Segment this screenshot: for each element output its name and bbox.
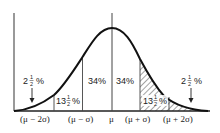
x-label-mu-plus-2sigma: (μ + 2σ) [163, 114, 193, 124]
svg-text:2: 2 [181, 76, 186, 86]
svg-text:1: 1 [30, 74, 33, 80]
x-label-mu-minus-2sigma: (μ − 2σ) [20, 114, 50, 124]
arrow-down-icon [189, 88, 194, 103]
svg-text:2: 2 [188, 81, 191, 87]
label-left-34-percent: 34% [88, 76, 106, 86]
svg-text:1: 1 [67, 94, 70, 100]
svg-text:%: % [36, 76, 44, 86]
svg-text:%: % [159, 96, 167, 106]
label-right-34-percent: 34% [116, 76, 134, 86]
label-right-tail-percent: 2 1 2 % [181, 74, 202, 87]
svg-text:%: % [194, 76, 202, 86]
svg-text:13: 13 [143, 96, 153, 106]
arrow-down-icon [30, 88, 35, 103]
svg-text:1: 1 [154, 94, 157, 100]
x-label-mu-minus-sigma: (μ − σ) [68, 114, 93, 124]
svg-text:13: 13 [56, 96, 66, 106]
label-left-13-percent: 13 1 2 % [56, 94, 80, 107]
svg-text:2: 2 [154, 101, 157, 107]
x-label-mu-plus-sigma: (μ + σ) [125, 114, 150, 124]
svg-text:1: 1 [188, 74, 191, 80]
x-label-mu: μ [109, 114, 114, 124]
label-left-tail-percent: 2 1 2 % [23, 74, 44, 87]
svg-text:2: 2 [67, 101, 70, 107]
svg-text:2: 2 [23, 76, 28, 86]
svg-text:%: % [72, 96, 80, 106]
label-right-13-percent: 13 1 2 % [142, 94, 168, 107]
normal-distribution-diagram: 2 1 2 % 13 1 2 % 34% 34% 13 1 2 % 2 1 2 … [0, 0, 220, 133]
svg-text:2: 2 [30, 81, 33, 87]
bell-curve [14, 28, 208, 111]
